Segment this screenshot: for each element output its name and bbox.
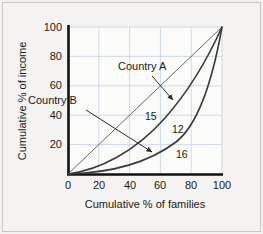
country-b-label: Country B xyxy=(28,94,77,106)
y-tick-label-40: 40 xyxy=(50,109,62,121)
x-tick-label-80: 80 xyxy=(185,179,197,191)
x-tick-label-0: 0 xyxy=(65,179,71,191)
x-tick-label-40: 40 xyxy=(124,179,136,191)
x-axis-title: Cumulative % of families xyxy=(85,198,206,210)
annotation-12: 12 xyxy=(172,123,184,135)
lorenz-curve-figure: Country A Country B 15 12 16 100 80 60 4… xyxy=(0,0,263,234)
lorenz-curve-chart: Country A Country B 15 12 16 100 80 60 4… xyxy=(0,0,263,234)
y-tick-label-100: 100 xyxy=(44,21,62,33)
annotation-15: 15 xyxy=(145,110,157,122)
country-a-label: Country A xyxy=(118,60,167,72)
annotation-16: 16 xyxy=(176,148,188,160)
y-axis-title: Cumulative % of income xyxy=(16,42,28,161)
x-tick-label-20: 20 xyxy=(93,179,105,191)
y-tick-label-80: 80 xyxy=(50,50,62,62)
x-tick-label-60: 60 xyxy=(154,179,166,191)
y-tick-label-60: 60 xyxy=(50,79,62,91)
x-tick-label-100: 100 xyxy=(213,179,231,191)
y-tick-label-20: 20 xyxy=(50,138,62,150)
